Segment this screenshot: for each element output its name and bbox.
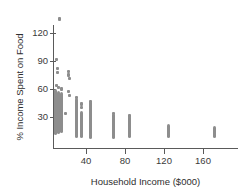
data-point	[59, 109, 62, 112]
data-column	[60, 92, 63, 133]
y-axis-title: % Income Spent on Food	[14, 25, 28, 149]
data-column	[128, 116, 131, 138]
data-point	[60, 87, 63, 90]
data-point	[56, 67, 59, 70]
data-point	[128, 114, 131, 117]
data-point	[75, 96, 78, 99]
data-column	[167, 124, 170, 138]
data-point	[68, 94, 71, 97]
data-column	[89, 101, 92, 139]
data-point	[67, 73, 70, 76]
data-point	[56, 71, 59, 74]
data-column	[80, 111, 83, 138]
data-column	[213, 126, 216, 138]
data-point	[67, 70, 70, 73]
x-axis-title: Household Income ($000)	[53, 176, 238, 187]
data-point	[80, 102, 83, 105]
data-point	[55, 58, 58, 61]
data-point	[67, 90, 70, 93]
data-point	[58, 17, 61, 20]
scatterplot-figure: 306090120 4080120160 % Income Spent on F…	[0, 0, 246, 195]
data-column	[112, 117, 115, 139]
data-points-layer	[0, 0, 246, 195]
data-column	[75, 98, 78, 137]
data-point	[112, 116, 115, 119]
data-point	[80, 106, 83, 109]
data-point	[68, 77, 71, 80]
data-point	[89, 100, 92, 103]
data-point	[64, 112, 67, 115]
